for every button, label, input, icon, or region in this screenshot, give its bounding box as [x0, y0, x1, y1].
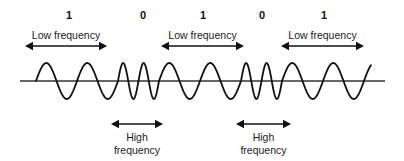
high-frequency-label-line1: High: [253, 131, 275, 143]
bit-labels: 10101: [66, 9, 327, 21]
high-frequency-label-line2: frequency: [114, 144, 161, 156]
bit-label: 1: [321, 9, 327, 21]
low-frequency-span-arrow: [25, 42, 107, 50]
low-frequency-span-arrow: [281, 42, 364, 50]
low-frequency-annotations: Low frequencyLow frequencyLow frequency: [25, 29, 364, 50]
low-frequency-span-arrow: [161, 42, 244, 50]
arrow-left-icon: [236, 120, 244, 128]
arrow-left-icon: [161, 42, 169, 50]
fsk-diagram: 10101 Low frequencyLow frequencyLow freq…: [0, 0, 404, 161]
bit-label: 0: [259, 9, 265, 21]
bit-label: 1: [66, 9, 72, 21]
arrow-left-icon: [111, 120, 119, 128]
low-frequency-label: Low frequency: [32, 29, 101, 41]
high-frequency-label-line1: High: [126, 131, 148, 143]
bit-label: 1: [200, 9, 206, 21]
arrow-left-icon: [25, 42, 33, 50]
high-frequency-span-arrow: [236, 120, 291, 128]
high-frequency-annotations: HighfrequencyHighfrequency: [111, 120, 291, 156]
low-frequency-label: Low frequency: [288, 29, 357, 41]
high-frequency-label-line2: frequency: [240, 144, 287, 156]
arrow-right-icon: [236, 42, 244, 50]
arrow-right-icon: [155, 120, 163, 128]
arrow-right-icon: [99, 42, 107, 50]
high-frequency-span-arrow: [111, 120, 163, 128]
bit-label: 0: [140, 9, 146, 21]
arrow-right-icon: [356, 42, 364, 50]
arrow-right-icon: [283, 120, 291, 128]
arrow-left-icon: [281, 42, 289, 50]
low-frequency-label: Low frequency: [168, 29, 237, 41]
